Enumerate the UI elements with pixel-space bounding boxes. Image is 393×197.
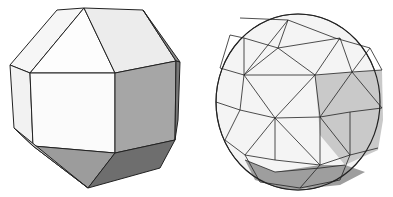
polyhedra-figure <box>0 0 393 197</box>
rhombicuboctahedron <box>10 8 180 188</box>
geodesic-sphere <box>216 14 383 190</box>
